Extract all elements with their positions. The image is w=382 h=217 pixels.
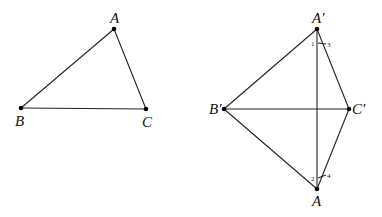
segment-ca (114, 29, 146, 109)
segment-a1c1 (317, 29, 349, 109)
point-b (19, 106, 24, 111)
label-a: A (109, 10, 120, 26)
point-a-bottom (315, 187, 320, 192)
label-b: B (15, 113, 24, 129)
angle-arc-3 (318, 43, 326, 44)
point-c-prime (347, 107, 352, 112)
segment-ab (21, 29, 114, 108)
segment-a1b1 (224, 29, 317, 109)
triangle-abc: A B C (15, 10, 153, 130)
angle-label-3: 3 (327, 41, 331, 49)
angle-label-1: 1 (311, 40, 315, 48)
segment-bc (21, 108, 146, 109)
angle-label-2: 2 (311, 175, 315, 183)
point-a-prime (315, 27, 320, 32)
angle-label-4: 4 (327, 172, 331, 180)
segment-b1a (224, 109, 317, 189)
label-a-prime: A′ (311, 10, 325, 26)
label-a-bottom: A (311, 193, 322, 209)
label-c-prime: C′ (352, 101, 366, 117)
figure-a-prime: A′ B′ C′ A 1 3 2 4 (209, 10, 366, 209)
label-b-prime: B′ (209, 101, 222, 117)
geometry-diagram: A B C A′ B′ C′ A 1 3 2 4 (0, 0, 382, 217)
label-c: C (142, 114, 153, 130)
point-c (144, 107, 149, 112)
point-a (112, 27, 117, 32)
point-b-prime (222, 107, 227, 112)
